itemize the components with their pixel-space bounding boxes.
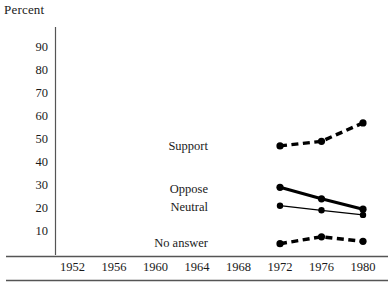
x-tick-label: 1956 [93,261,135,274]
y-tick-label: 20 [22,202,48,215]
data-point [359,119,366,126]
y-tick-label: 30 [22,179,48,192]
data-point [318,233,325,240]
series-layer [276,119,366,247]
y-tick-label: 90 [22,41,48,54]
data-point [360,212,366,218]
data-point [359,238,366,245]
data-point [318,138,325,145]
x-tick-label: 1972 [259,261,301,274]
data-point [277,203,283,209]
y-tick-label: 80 [22,64,48,77]
series-label-neutral: Neutral [120,201,208,214]
data-point [318,195,325,202]
series-no-answer [276,233,366,247]
series-neutral [277,203,366,219]
x-tick-label: 1976 [301,261,343,274]
data-point [318,207,324,213]
y-tick-label: 50 [22,133,48,146]
x-tick-label: 1964 [176,261,218,274]
x-tick-label: 1968 [218,261,260,274]
y-tick-label: 70 [22,87,48,100]
series-support [276,119,366,149]
x-tick-label: 1960 [135,261,177,274]
y-tick-label: 60 [22,110,48,123]
series-label-support: Support [120,140,208,153]
x-tick-label: 1980 [342,261,384,274]
x-tick-label: 1952 [52,261,94,274]
chart-container: Percent 908070605040302010 1952195619601… [0,0,388,286]
series-label-oppose: Oppose [120,183,208,196]
data-point [276,142,283,149]
y-tick-label: 40 [22,156,48,169]
data-point [276,240,283,247]
y-tick-label: 10 [22,225,48,238]
data-point [276,184,283,191]
series-label-no-answer: No answer [110,237,208,250]
